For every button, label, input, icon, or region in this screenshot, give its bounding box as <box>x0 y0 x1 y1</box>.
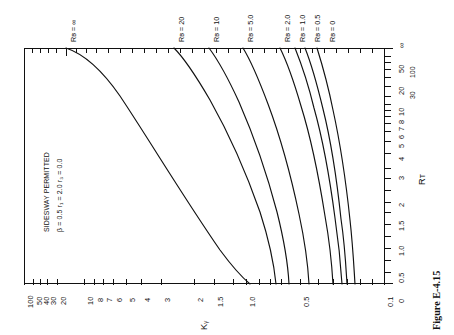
curve-rb-20 <box>174 48 276 284</box>
curve-rb-10 <box>209 48 289 284</box>
rt-axis-title: Rᴛ <box>418 174 427 185</box>
series-label-rb-inf: Rʙ = ∞ <box>70 20 77 42</box>
ky-tick-100: 100 <box>27 295 34 308</box>
ky-tick-10: 10 <box>87 297 94 305</box>
curve-family <box>24 48 385 284</box>
annotation-sidesway: SIDESWAY PERMITTED <box>44 152 51 232</box>
figure-caption: Figure E-4.15 <box>432 271 442 330</box>
curve-rb-1 <box>295 48 342 284</box>
ky-tick-1-0: 1.0 <box>249 296 256 307</box>
nomograph-figure: Rʙ = ∞ Rʙ = 20 Rʙ = 10 Rʙ = 5.0 Rʙ = 2.0… <box>0 0 454 335</box>
series-label-rb-1: Rʙ = 1.0 <box>299 15 306 42</box>
rt-tick-4: 4 <box>398 157 405 161</box>
curve-rb-05 <box>305 48 347 284</box>
rt-tick-100: 100 <box>410 67 417 79</box>
rt-tick-6: 6 <box>398 135 405 139</box>
ky-tick-2: 2 <box>197 298 204 302</box>
rt-tick-1-5: 1.5 <box>398 220 405 231</box>
curve-rb-inf <box>66 48 250 284</box>
ky-tick-6: 6 <box>116 298 123 302</box>
series-label-rb-0: Rʙ = 0 <box>329 21 336 42</box>
rt-tick-0: 0 <box>398 299 405 303</box>
ky-tick-0-5: 0.5 <box>303 296 310 307</box>
rt-tick-7: 7 <box>398 127 405 131</box>
series-label-rb-5: Rʙ = 5.0 <box>247 15 254 42</box>
figure-page: Rʙ = ∞ Rʙ = 20 Rʙ = 10 Rʙ = 5.0 Rʙ = 2.0… <box>0 0 454 335</box>
ky-tick-20: 20 <box>60 297 67 305</box>
ky-axis-title: Kᵧ <box>200 321 209 330</box>
rt-tick-5: 5 <box>398 144 405 148</box>
rt-tick-8: 8 <box>398 120 405 124</box>
ky-tick-3: 3 <box>164 298 171 302</box>
ky-tick-0-1: 0.1 <box>387 296 394 307</box>
ky-tick-5: 5 <box>129 298 136 302</box>
rt-tick-1-0: 1.0 <box>398 245 405 256</box>
curve-rb-0 <box>317 48 355 284</box>
ky-tick-30: 30 <box>50 297 57 305</box>
ky-tick-7: 7 <box>106 298 113 302</box>
rt-tick-2: 2 <box>398 203 405 207</box>
ky-tick-4: 4 <box>144 298 151 302</box>
rt-tick-inf: ∞ <box>398 43 405 48</box>
rt-tick-3: 3 <box>398 176 405 180</box>
rt-tick-10: 10 <box>398 108 405 116</box>
annotation-parameters: β = 0.5 r₁ = 2.0 r₃ = 0.0 <box>57 158 64 232</box>
series-label-rb-20: Rʙ = 20 <box>178 17 185 42</box>
rt-tick-50: 50 <box>398 65 405 73</box>
series-label-rb-2: Rʙ = 2.0 <box>284 15 291 42</box>
rt-tick-0-5: 0.5 <box>398 272 405 283</box>
ky-tick-8: 8 <box>97 298 104 302</box>
series-label-rb-05: Rʙ = 0.5 <box>314 15 321 42</box>
series-label-rb-10: Rʙ = 10 <box>213 17 220 42</box>
ky-tick-1-5: 1.5 <box>217 296 224 307</box>
rt-tick-20: 20 <box>398 87 405 95</box>
rt-tick-30: 30 <box>410 91 417 99</box>
curve-rb-5 <box>243 48 309 284</box>
